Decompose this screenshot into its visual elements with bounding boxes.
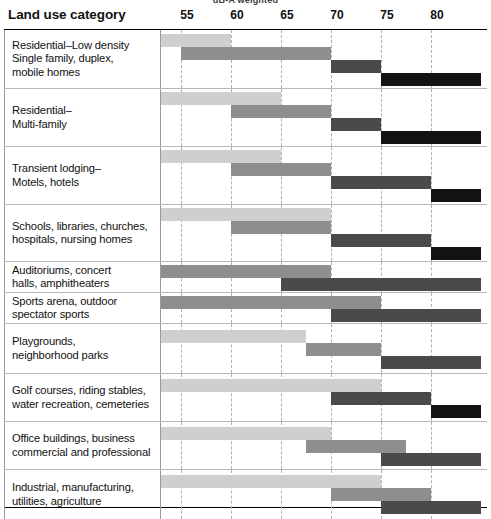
- page-title: Land use category: [8, 7, 126, 22]
- row-label-cell: Playgrounds,neighborhood parks: [4, 324, 161, 373]
- row-label-cell: Residential–Low densitySingle family, du…: [4, 30, 161, 88]
- row-label-cell: Residential–Multi-family: [4, 89, 161, 146]
- row-label-line: halls, amphitheaters: [12, 277, 111, 290]
- row-label-text: Playgrounds,neighborhood parks: [12, 335, 108, 362]
- row-label-cell: Auditoriums, concerthalls, amphitheaters: [4, 262, 161, 292]
- row-label-cell: Schools, libraries, churches,hospitals, …: [4, 205, 161, 261]
- bar-band_4: [381, 73, 481, 86]
- bar-band_2: [331, 488, 431, 501]
- row-label-text: Golf courses, riding stables,water recre…: [12, 384, 149, 411]
- row-label-line: Transient lodging–: [12, 162, 101, 175]
- row-plot-cell: [161, 147, 487, 204]
- bar-band_1: [161, 427, 331, 440]
- table-row: Transient lodging–Motels, hotels: [4, 147, 487, 205]
- axis-tick-75: 75: [380, 8, 393, 22]
- bar-band_3: [331, 234, 431, 247]
- axis-tick-60: 60: [230, 8, 243, 22]
- bar-band_3: [381, 453, 481, 466]
- row-label-line: Single family, duplex,: [12, 52, 129, 65]
- bar-band_1: [161, 150, 281, 163]
- row-label-line: Golf courses, riding stables,: [12, 384, 149, 397]
- row-plot-cell: [161, 374, 487, 421]
- bar-band_1: [161, 330, 306, 343]
- axis-tick-70: 70: [330, 8, 343, 22]
- table-row: Residential–Multi-family: [4, 89, 487, 147]
- axis-tick-80: 80: [430, 8, 443, 22]
- row-label-line: Multi-family: [12, 118, 72, 131]
- bar-band_2: [306, 343, 381, 356]
- row-label-cell: Sports arena, outdoorspectator sports: [4, 293, 161, 323]
- row-label-line: Office buildings, business: [12, 432, 150, 445]
- bar-band_3: [381, 356, 481, 369]
- row-plot-cell: [161, 262, 487, 292]
- row-label-line: Industrial, manufacturing,: [12, 481, 134, 494]
- axis-tick-65: 65: [280, 8, 293, 22]
- bar-band_4: [431, 189, 481, 202]
- chart-header: Land use category 556065707580: [0, 5, 491, 29]
- table-row: Auditoriums, concerthalls, amphitheaters: [4, 262, 487, 293]
- row-label-cell: Transient lodging–Motels, hotels: [4, 147, 161, 204]
- bar-band_1: [161, 34, 231, 47]
- row-label-line: Playgrounds,: [12, 335, 108, 348]
- table-row: Sports arena, outdoorspectator sports: [4, 293, 487, 324]
- row-label-text: Office buildings, businesscommercial and…: [12, 432, 150, 459]
- row-label-line: commercial and professional: [12, 446, 150, 459]
- row-label-line: mobile homes: [12, 66, 129, 79]
- row-plot-cell: [161, 293, 487, 323]
- table-row: Golf courses, riding stables,water recre…: [4, 374, 487, 422]
- row-plot-cell: [161, 30, 487, 88]
- table-row: Schools, libraries, churches,hospitals, …: [4, 205, 487, 262]
- row-label-line: Auditoriums, concert: [12, 264, 111, 277]
- bar-band_2: [231, 163, 331, 176]
- row-label-line: hospitals, nursing homes: [12, 233, 148, 246]
- row-label-line: water recreation, cemeteries: [12, 398, 149, 411]
- bar-band_3: [331, 309, 481, 322]
- bar-band_2: [161, 265, 331, 278]
- row-plot-cell: [161, 205, 487, 261]
- row-label-text: Sports arena, outdoorspectator sports: [12, 295, 117, 322]
- row-label-text: Residential–Low densitySingle family, du…: [12, 39, 129, 79]
- bar-band_2: [161, 296, 381, 309]
- table-row: Office buildings, businesscommercial and…: [4, 422, 487, 470]
- bar-band_1: [161, 92, 281, 105]
- row-label-line: Residential–Low density: [12, 39, 129, 52]
- bar-band_1: [161, 475, 381, 488]
- row-label-text: Residential–Multi-family: [12, 104, 72, 131]
- bar-band_1: [161, 208, 331, 221]
- row-plot-cell: [161, 422, 487, 469]
- bar-band_2: [181, 47, 331, 60]
- row-label-cell: Office buildings, businesscommercial and…: [4, 422, 161, 469]
- row-label-cell: Industrial, manufacturing,utilities, agr…: [4, 470, 161, 519]
- row-label-text: Industrial, manufacturing,utilities, agr…: [12, 481, 134, 508]
- bar-band_2: [231, 221, 331, 234]
- bar-band_2: [231, 105, 331, 118]
- bar-band_3: [331, 60, 381, 73]
- row-label-line: neighborhood parks: [12, 349, 108, 362]
- row-label-line: Motels, hotels: [12, 176, 101, 189]
- bar-band_4: [431, 405, 481, 418]
- row-label-text: Schools, libraries, churches,hospitals, …: [12, 220, 148, 247]
- table-row: Residential–Low densitySingle family, du…: [4, 30, 487, 89]
- row-label-line: Schools, libraries, churches,: [12, 220, 148, 233]
- bar-band_3: [281, 278, 481, 291]
- row-label-text: Transient lodging–Motels, hotels: [12, 162, 101, 189]
- bar-band_2: [306, 440, 406, 453]
- table-row: Industrial, manufacturing,utilities, agr…: [4, 470, 487, 519]
- row-plot-cell: [161, 89, 487, 146]
- chart-table: Residential–Low densitySingle family, du…: [4, 29, 487, 508]
- bar-band_4: [381, 131, 481, 144]
- row-plot-cell: [161, 470, 487, 519]
- row-plot-cell: [161, 324, 487, 373]
- bar-band_3: [381, 501, 481, 514]
- bar-band_3: [331, 392, 431, 405]
- row-label-text: Auditoriums, concerthalls, amphitheaters: [12, 264, 111, 291]
- bar-band_4: [431, 247, 481, 260]
- axis-tick-55: 55: [180, 8, 193, 22]
- row-label-line: Residential–: [12, 104, 72, 117]
- row-label-cell: Golf courses, riding stables,water recre…: [4, 374, 161, 421]
- bar-band_3: [331, 176, 431, 189]
- bar-band_3: [331, 118, 381, 131]
- row-label-line: utilities, agriculture: [12, 495, 134, 508]
- bar-band_1: [161, 379, 381, 392]
